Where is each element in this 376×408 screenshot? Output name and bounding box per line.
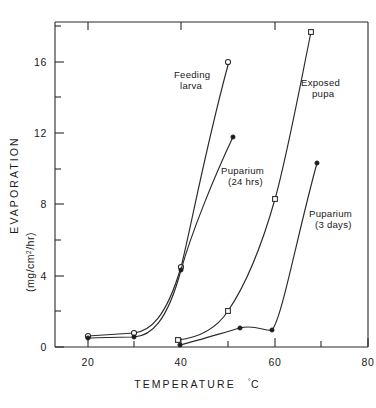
annotation-exposed-pupa-line2: pupa [312, 88, 335, 99]
evaporation-vs-temperature-figure: 0 4 8 12 16 20 40 60 80 TEMPERATURE °C E… [0, 0, 376, 408]
celsius-letter: C [251, 378, 259, 390]
data-point-marker [315, 161, 319, 165]
x-tick-label-40: 40 [175, 356, 188, 368]
x-axis-title: TEMPERATURE [134, 378, 236, 390]
y-tick-labels: 0 4 8 12 16 [34, 56, 47, 353]
y-tick-label-16: 16 [34, 56, 47, 68]
x-tick-label-60: 60 [269, 356, 282, 368]
annotation-feeding-larva-line2: larva [180, 80, 202, 91]
curve-feeding-larva [88, 65, 228, 336]
curve-puparium-3days [180, 163, 317, 345]
annotation-puparium-24hrs: Puparium (24 hrs) [221, 165, 264, 187]
data-point-marker [273, 197, 278, 202]
y-axis-unit: (mg/cm2/hr) [24, 232, 36, 292]
y-axis-minor-ticks [55, 26, 61, 311]
data-point-marker [86, 336, 90, 340]
y-axis-unit-group: (mg/cm2/hr) [24, 232, 36, 292]
x-axis-top-ticks [88, 22, 275, 30]
y-axis-title: EVAPORATION [8, 136, 20, 233]
y-tick-label-8: 8 [41, 198, 47, 210]
series-feeding-larva [85, 59, 230, 338]
annotation-exposed-pupa: Exposed pupa [301, 77, 340, 99]
data-point-marker [179, 268, 183, 272]
y-axis-major-ticks [55, 62, 64, 347]
chart-svg: 0 4 8 12 16 20 40 60 80 TEMPERATURE °C E… [0, 0, 376, 408]
x-axis-unit: °C [248, 378, 259, 390]
data-point-marker [309, 30, 314, 35]
annotation-puparium-24hrs-line2: (24 hrs) [228, 176, 263, 187]
annotation-feeding-larva-line1: Feeding [174, 69, 210, 80]
annotation-puparium-3days: Puparium (3 days) [309, 208, 352, 230]
y-tick-label-4: 4 [41, 270, 47, 282]
x-tick-label-80: 80 [362, 356, 375, 368]
x-tick-label-20: 20 [82, 356, 95, 368]
data-point-marker [176, 338, 181, 343]
x-axis-minor-ticks [134, 341, 321, 347]
y-axis-title-group: EVAPORATION [8, 136, 20, 233]
series-puparium-24hrs [86, 135, 235, 340]
curve-puparium-24hrs [88, 137, 233, 338]
annotation-puparium-3days-line1: Puparium [309, 208, 352, 219]
annotation-feeding-larva: Feeding larva [174, 69, 210, 91]
x-axis-title-group: TEMPERATURE °C [134, 378, 259, 390]
y-tick-label-12: 12 [34, 127, 47, 139]
data-point-marker [225, 59, 230, 64]
annotation-puparium-24hrs-line1: Puparium [221, 165, 264, 176]
annotation-exposed-pupa-line1: Exposed [301, 77, 340, 88]
data-point-marker [238, 326, 242, 330]
data-point-marker [178, 343, 182, 347]
data-point-marker [231, 135, 235, 139]
data-point-marker [226, 309, 231, 314]
x-tick-labels: 20 40 60 80 [82, 356, 375, 368]
y-tick-label-0: 0 [41, 341, 47, 353]
annotation-puparium-3days-line2: (3 days) [315, 219, 352, 230]
series-puparium-3days [178, 161, 319, 347]
data-point-marker [270, 328, 274, 332]
data-point-marker [132, 335, 136, 339]
